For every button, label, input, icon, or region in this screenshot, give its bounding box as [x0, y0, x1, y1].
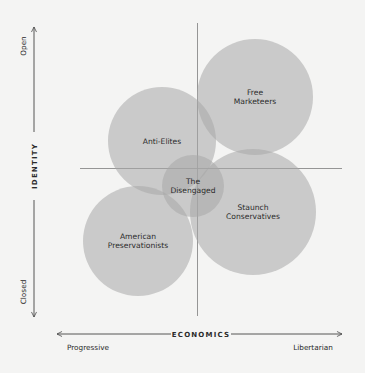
economics-libertarian-label: Libertarian: [293, 343, 333, 352]
identity-axis-title: IDENTITY: [31, 143, 39, 189]
label-anti-elites: Anti-Elites: [143, 137, 182, 146]
economics-axis-title: ECONOMICS: [172, 331, 230, 339]
economics-progressive-label: Progressive: [67, 343, 109, 352]
identity-closed-label: Closed: [19, 280, 28, 305]
identity-open-label: Open: [19, 36, 28, 56]
identity-economics-diagram: FreeMarketeersAnti-ElitesAmericanPreserv…: [0, 0, 365, 373]
group-circles: [83, 39, 316, 296]
